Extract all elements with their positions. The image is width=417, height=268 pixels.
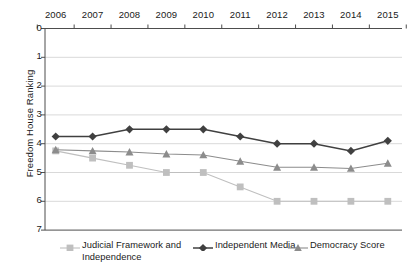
triangle-marker: [384, 159, 392, 166]
square-marker: [200, 169, 207, 176]
legend-item-3[interactable]: Democracy Score: [288, 240, 385, 252]
x-tick-label-2015: 2015: [371, 9, 405, 20]
series-line: [56, 129, 388, 151]
legend-item-1[interactable]: Judicial Framework and Independence: [60, 240, 202, 263]
x-tick-label-2007: 2007: [76, 9, 110, 20]
x-tick-label-2013: 2013: [297, 9, 331, 20]
plot-area: [0, 0, 417, 268]
diamond-marker: [236, 132, 244, 140]
x-tick-label-2006: 2006: [39, 9, 73, 20]
square-marker: [384, 198, 391, 205]
y-tick-label-1: 1: [26, 50, 42, 61]
x-tick-label-2011: 2011: [223, 9, 257, 20]
square-marker: [311, 198, 318, 205]
y-tick-label-0: 0: [26, 22, 42, 33]
diamond-marker: [347, 147, 355, 155]
diamond-marker: [162, 125, 170, 133]
diamond-marker: [52, 132, 60, 140]
x-tick-label-2010: 2010: [186, 9, 220, 20]
square-marker: [126, 162, 133, 169]
y-tick-label-4: 4: [26, 137, 42, 148]
square-marker: [237, 184, 244, 191]
y-tick-label-6: 6: [26, 194, 42, 205]
square-marker: [348, 198, 355, 205]
diamond-marker: [199, 125, 207, 133]
square-marker: [67, 245, 74, 251]
legend-label: Judicial Framework and Independence: [82, 240, 202, 263]
square-marker: [163, 169, 170, 176]
square-marker: [274, 198, 281, 205]
diamond-marker: [125, 125, 133, 133]
series-2: [52, 125, 392, 155]
square-marker: [60, 243, 80, 251]
diamond-marker: [193, 243, 213, 251]
x-tick-label-2008: 2008: [113, 9, 147, 20]
diamond-marker: [310, 140, 318, 148]
triangle-marker: [288, 243, 308, 251]
legend-label: Independent Media: [215, 240, 295, 252]
y-tick-label-2: 2: [26, 79, 42, 90]
y-tick-label-3: 3: [26, 108, 42, 119]
series-line: [56, 150, 388, 169]
x-tick-label-2014: 2014: [334, 9, 368, 20]
y-tick-label-7: 7: [26, 223, 42, 234]
diamond-marker: [199, 244, 207, 251]
x-tick-label-2012: 2012: [260, 9, 294, 20]
diamond-marker: [273, 140, 281, 148]
x-tick-label-2009: 2009: [149, 9, 183, 20]
legend-label: Democracy Score: [310, 240, 385, 252]
y-tick-label-5: 5: [26, 166, 42, 177]
series-1: [52, 148, 391, 205]
chart-legend: Judicial Framework and IndependenceIndep…: [0, 236, 417, 268]
legend-item-2[interactable]: Independent Media: [193, 240, 295, 252]
square-marker: [89, 155, 96, 162]
freedom-house-ranking-chart: Freedom House Ranking 200620072008200920…: [0, 0, 417, 268]
diamond-marker: [89, 132, 97, 140]
